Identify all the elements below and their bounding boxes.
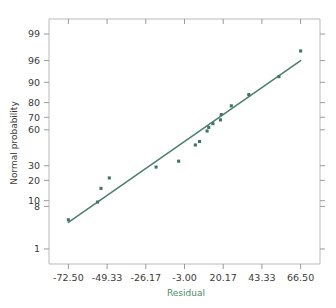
data-point [207,126,210,129]
x-axis-title: Residual [167,288,205,298]
data-point [108,176,111,179]
y-tick-label: 96 [28,55,40,66]
y-tick-label: 30 [28,160,40,171]
data-point [206,129,209,132]
y-axis-title: Normal probability [9,101,19,185]
y-tick-label: 60 [28,124,40,135]
x-tick-label: -49.33 [92,272,123,283]
y-tick-label: 20 [28,175,40,186]
x-tick-label: 43.33 [248,272,275,283]
data-point [99,187,102,190]
y-tick-label: 99 [28,28,40,39]
normal-probability-plot: -72.50-49.33-26.17-3.0020.1743.3366.50 9… [0,0,336,308]
data-point [230,104,233,107]
x-tick-label: -3.00 [172,272,197,283]
y-tick-label: 1 [34,243,40,254]
data-point [219,118,222,121]
data-point [220,113,223,116]
data-point [211,122,214,125]
data-point [96,200,99,203]
data-point [299,49,302,52]
y-tick-label: 90 [28,77,40,88]
x-tick-label: -72.50 [53,272,84,283]
y-tick-label: 70 [28,112,40,123]
y-tick-label: 80 [28,97,40,108]
data-point [155,166,158,169]
data-point [277,75,280,78]
x-tick-label: -26.17 [130,272,161,283]
data-point [194,143,197,146]
data-point [177,160,180,163]
y-tick-label: 8 [34,201,40,212]
chart-canvas: -72.50-49.33-26.17-3.0020.1743.3366.50 9… [0,0,336,308]
data-point [67,218,70,221]
x-tick-label: 66.50 [287,272,314,283]
chart-background [0,0,336,308]
x-tick-label: 20.17 [210,272,237,283]
data-point [198,140,201,143]
data-point [247,93,250,96]
